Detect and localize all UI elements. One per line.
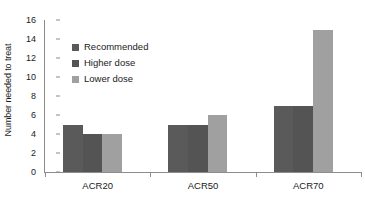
bar	[208, 115, 228, 172]
bar	[313, 30, 333, 173]
y-axis-title: Number needed to treat	[0, 0, 16, 180]
x-axis-tick-mark	[361, 172, 362, 177]
bar	[63, 125, 83, 173]
x-axis-category-label: ACR20	[82, 180, 113, 191]
y-axis-tick-label: 10	[26, 72, 36, 82]
y-axis-tick-label: 16	[26, 15, 36, 25]
legend-label: Higher dose	[84, 58, 135, 68]
bar	[102, 134, 122, 172]
bar-group	[274, 20, 333, 172]
legend-swatch-icon	[72, 76, 79, 83]
legend-swatch-icon	[72, 44, 79, 51]
y-axis-tick-label: 14	[26, 34, 36, 44]
bar	[293, 106, 313, 173]
legend-item: Recommended	[72, 40, 148, 54]
bar-group	[168, 20, 227, 172]
x-axis-category-label: ACR70	[293, 180, 324, 191]
y-axis-tick-label: 2	[31, 148, 36, 158]
bar-chart: Number needed to treat 0246810121416 ACR…	[0, 0, 365, 215]
x-axis-tick-mark	[45, 172, 46, 177]
y-axis-tick-labels: 0246810121416	[16, 20, 38, 172]
x-axis-category-label: ACR50	[188, 180, 219, 191]
y-axis-tick-label: 12	[26, 53, 36, 63]
legend-label: Lower dose	[84, 74, 133, 84]
bar	[274, 106, 294, 173]
y-axis-tick-label: 6	[31, 110, 36, 120]
y-axis-tick-label: 8	[31, 91, 36, 101]
y-axis-title-text: Number needed to treat	[3, 44, 13, 137]
y-axis-tick-label: 4	[31, 129, 36, 139]
y-axis-tick-label: 0	[31, 167, 36, 177]
legend-swatch-icon	[72, 60, 79, 67]
bar	[168, 125, 188, 173]
legend-item: Lower dose	[72, 72, 148, 86]
legend-label: Recommended	[84, 42, 148, 52]
x-axis-tick-mark	[150, 172, 151, 177]
chart-legend: RecommendedHigher doseLower dose	[72, 40, 148, 88]
legend-item: Higher dose	[72, 56, 148, 70]
bar	[188, 125, 208, 173]
x-axis-tick-mark	[256, 172, 257, 177]
bar	[83, 134, 103, 172]
x-axis-line	[44, 172, 361, 173]
